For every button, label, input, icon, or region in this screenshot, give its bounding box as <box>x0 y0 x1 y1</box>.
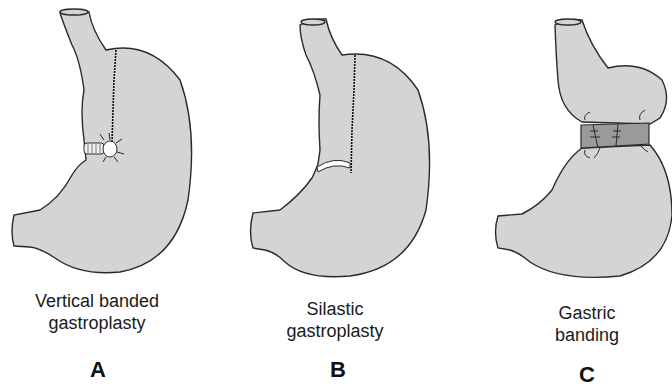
stomach-figure-b <box>251 19 430 277</box>
caption-a-line2: gastroplasty <box>0 312 197 334</box>
window-opening-a <box>103 141 117 157</box>
caption-a: Vertical banded gastroplasty <box>0 290 197 334</box>
caption-b-line1: Silastic <box>235 298 435 320</box>
caption-c-line2: banding <box>487 324 672 346</box>
caption-b: Silastic gastroplasty <box>235 298 435 342</box>
panel-label-b: B <box>308 357 368 383</box>
panel-label-a: A <box>68 357 128 383</box>
diagram-canvas <box>0 0 672 300</box>
panel-label-c: C <box>557 362 617 388</box>
caption-b-line2: gastroplasty <box>235 320 435 342</box>
mesh-band-a <box>84 143 104 154</box>
caption-c: Gastric banding <box>487 302 672 346</box>
stomach-figure-a <box>12 9 192 273</box>
caption-a-line1: Vertical banded <box>0 290 197 312</box>
stomach-figure-c <box>496 19 672 277</box>
caption-c-line1: Gastric <box>487 302 672 324</box>
gastric-band-c <box>581 123 649 148</box>
